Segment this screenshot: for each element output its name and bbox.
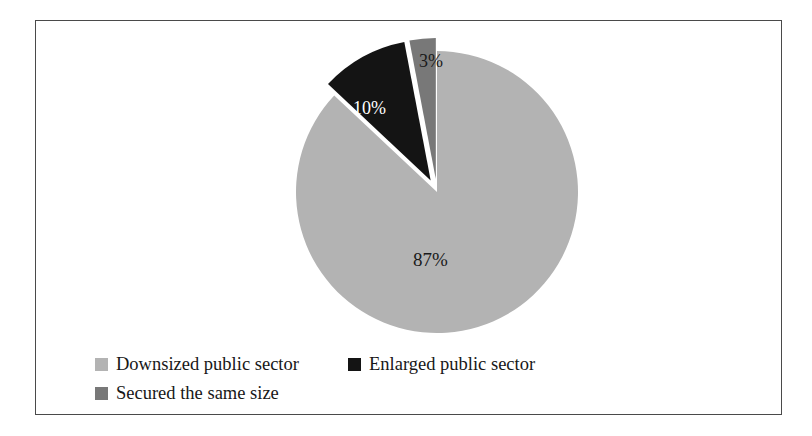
legend-row-2: Secured the same size bbox=[95, 381, 655, 406]
legend-item-downsized-public-sector[interactable]: Downsized public sector bbox=[95, 355, 348, 374]
pie-chart-plot-area: 87% 10% 3% Downsized public sector Enlar… bbox=[0, 0, 812, 436]
pie-data-label-10-percent: 10% bbox=[353, 98, 386, 119]
legend-swatch-secured-the-same-size bbox=[95, 387, 108, 400]
legend-label-enlarged-public-sector: Enlarged public sector bbox=[369, 355, 535, 374]
legend-item-secured-the-same-size[interactable]: Secured the same size bbox=[95, 384, 279, 403]
legend-row-1: Downsized public sector Enlarged public … bbox=[95, 352, 655, 377]
legend-label-secured-the-same-size: Secured the same size bbox=[116, 384, 279, 403]
chart-figure: 87% 10% 3% Downsized public sector Enlar… bbox=[0, 0, 812, 436]
legend-item-enlarged-public-sector[interactable]: Enlarged public sector bbox=[348, 355, 535, 374]
chart-legend: Downsized public sector Enlarged public … bbox=[95, 352, 655, 410]
legend-label-downsized-public-sector: Downsized public sector bbox=[116, 355, 299, 374]
legend-swatch-downsized-public-sector bbox=[95, 358, 108, 371]
pie-data-label-3-percent: 3% bbox=[419, 51, 443, 72]
pie-data-label-87-percent: 87% bbox=[413, 249, 448, 271]
legend-swatch-enlarged-public-sector bbox=[348, 358, 361, 371]
